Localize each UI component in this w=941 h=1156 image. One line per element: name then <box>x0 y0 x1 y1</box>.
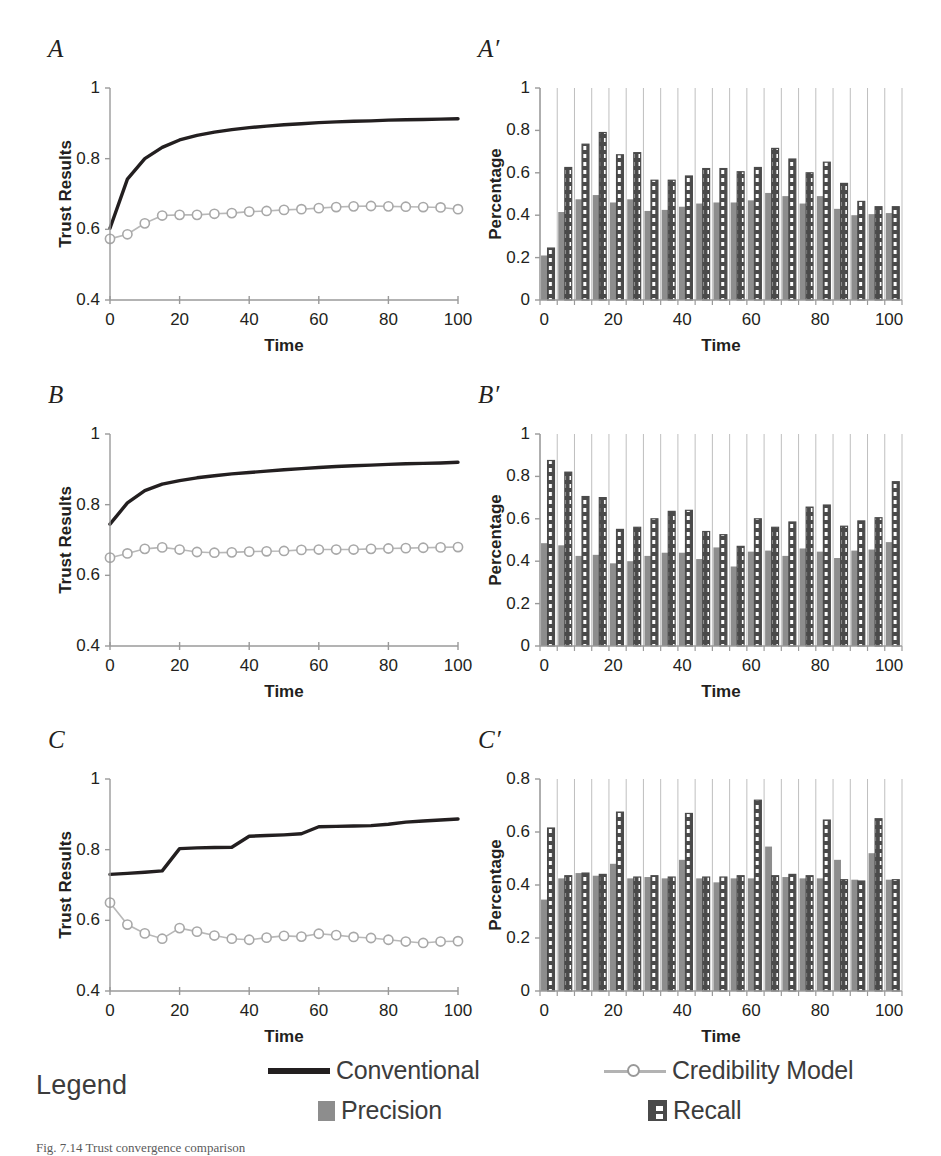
bar-recall <box>634 527 641 646</box>
marker-credibility-model <box>297 205 306 214</box>
bar-precision <box>765 551 772 646</box>
x-tick-label: 40 <box>240 1001 259 1021</box>
bar-precision <box>765 847 772 991</box>
marker-credibility-model <box>245 207 254 216</box>
x-tick-label: 40 <box>240 310 259 330</box>
bar-recall <box>668 511 675 646</box>
marker-credibility-model <box>192 210 201 219</box>
marker-credibility-model <box>314 204 323 213</box>
series-conventional <box>110 462 458 524</box>
marker-credibility-model <box>227 934 236 943</box>
bar-precision <box>662 878 669 991</box>
y-axis-title-Bprime: Percentage <box>486 434 506 646</box>
marker-credibility-model <box>419 938 428 947</box>
figure-root: A 0.40.60.81020406080100Trust ResultsTim… <box>0 0 941 1156</box>
plot-area-A: 0.40.60.81020406080100Trust ResultsTime <box>110 88 458 300</box>
bar-precision <box>817 878 824 991</box>
marker-credibility-model <box>349 202 358 211</box>
bar-recall <box>703 532 710 646</box>
x-axis-title-Aprime: Time <box>540 336 902 356</box>
marker-credibility-model <box>140 544 149 553</box>
panel-A-prime: A′ 00.20.40.60.81020406080100PercentageT… <box>478 36 918 366</box>
bar-recall <box>892 207 899 300</box>
marker-credibility-model <box>245 935 254 944</box>
panel-B: B 0.40.60.81020406080100Trust ResultsTim… <box>48 382 468 712</box>
bar-recall <box>634 153 641 300</box>
bar-precision <box>627 878 634 991</box>
marker-credibility-model <box>314 929 323 938</box>
bar-precision <box>713 547 720 646</box>
bar-recall <box>737 172 744 300</box>
bar-recall <box>685 813 692 991</box>
marker-credibility-model <box>158 543 167 552</box>
bar-precision <box>800 548 807 646</box>
marker-credibility-model <box>366 544 375 553</box>
bar-recall <box>806 507 813 646</box>
marker-credibility-model <box>279 546 288 555</box>
panel-C: C 0.40.60.81020406080100Trust ResultsTim… <box>48 727 468 1057</box>
bar-recall <box>737 876 744 991</box>
x-tick-label: 40 <box>673 1001 692 1021</box>
marker-credibility-model <box>192 547 201 556</box>
x-tick-label: 60 <box>742 310 761 330</box>
marker-credibility-model <box>401 202 410 211</box>
bar-precision <box>748 200 755 300</box>
y-axis-title-A: Trust Results <box>56 88 76 300</box>
plot-svg-A <box>110 88 468 312</box>
plot-area-Aprime: 00.20.40.60.81020406080100PercentageTime <box>540 88 902 300</box>
marker-credibility-model <box>349 545 358 554</box>
series-conventional <box>110 819 458 874</box>
bar-recall <box>703 169 710 300</box>
marker-credibility-model <box>366 201 375 210</box>
bar-recall <box>772 876 779 991</box>
bar-precision <box>713 202 720 300</box>
bar-recall <box>548 461 555 647</box>
x-tick-label: 80 <box>379 1001 398 1021</box>
x-tick-label: 100 <box>444 656 472 676</box>
bar-precision <box>748 552 755 646</box>
x-tick-label: 20 <box>604 656 623 676</box>
plot-area-Bprime: 00.20.40.60.81020406080100PercentageTime <box>540 434 902 646</box>
bar-recall <box>668 180 675 300</box>
bar-recall <box>720 169 727 300</box>
panel-A: A 0.40.60.81020406080100Trust ResultsTim… <box>48 36 468 366</box>
bar-precision <box>886 880 893 991</box>
legend-entry-conventional: Conventional <box>268 1056 480 1085</box>
bar-recall <box>651 876 658 991</box>
marker-credibility-model <box>123 920 132 929</box>
bar-precision <box>644 877 651 991</box>
marker-credibility-model <box>262 547 271 556</box>
bar-recall <box>582 144 589 300</box>
bar-recall <box>651 180 658 300</box>
bar-precision <box>851 215 858 300</box>
legend-label-conventional: Conventional <box>336 1056 480 1085</box>
bar-precision <box>886 213 893 300</box>
bar-precision <box>713 882 720 991</box>
marker-credibility-model <box>210 548 219 557</box>
bar-precision <box>610 864 617 991</box>
panel-B-prime: B′ 00.20.40.60.81020406080100PercentageT… <box>478 382 918 712</box>
bar-recall <box>617 529 624 646</box>
bar-precision <box>576 556 583 646</box>
bar-recall <box>823 820 830 991</box>
bar-precision <box>593 195 600 300</box>
marker-credibility-model <box>210 931 219 940</box>
bar-precision <box>662 210 669 300</box>
marker-credibility-model <box>384 935 393 944</box>
x-tick-label: 100 <box>444 1001 472 1021</box>
legend-label-credibility-model: Credibility Model <box>672 1056 853 1085</box>
bar-precision <box>834 558 841 646</box>
marker-credibility-model <box>314 545 323 554</box>
plot-svg-Aprime <box>540 88 912 312</box>
bar-precision <box>576 199 583 300</box>
bar-precision <box>817 196 824 300</box>
bar-precision <box>696 878 703 991</box>
marker-credibility-model <box>384 202 393 211</box>
bar-recall <box>565 472 572 646</box>
x-tick-label: 0 <box>105 656 114 676</box>
bar-recall <box>582 497 589 646</box>
marker-credibility-model <box>158 211 167 220</box>
bar-precision <box>800 204 807 300</box>
marker-credibility-model <box>123 230 132 239</box>
marker-credibility-model <box>262 933 271 942</box>
